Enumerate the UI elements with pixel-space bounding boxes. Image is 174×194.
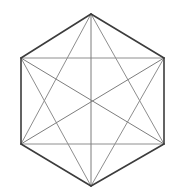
hexagon-complete-graph-figure [0, 0, 174, 194]
figure-container [0, 0, 174, 194]
figure-background [0, 0, 174, 194]
